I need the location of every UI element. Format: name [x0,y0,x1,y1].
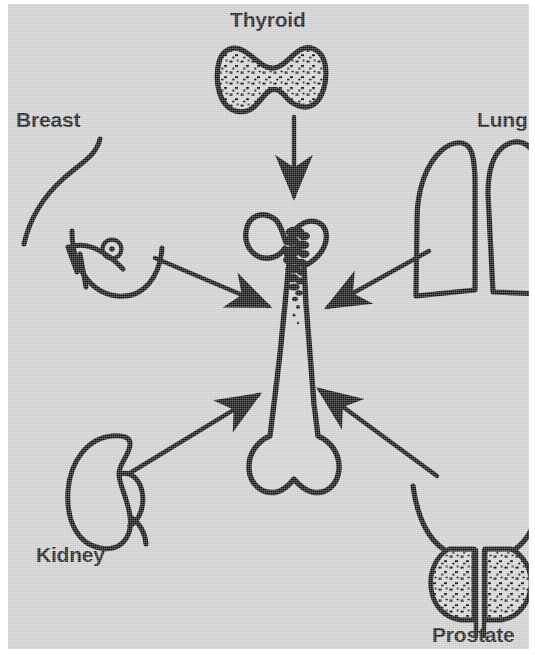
lung-organ [416,142,529,296]
label-thyroid: Thyroid [230,9,306,30]
label-breast: Breast [16,109,80,130]
prostate-organ [413,486,529,636]
breast-organ [24,139,162,296]
figure-root: Thyroid Breast Lung Kidney Prostate [0,0,535,655]
femur-bone [246,215,339,493]
arrow-breast-to-bone [155,258,268,306]
label-lung: Lung [477,109,528,130]
arrow-kidney-to-bone [130,395,258,473]
kidney-organ [68,436,146,549]
label-kidney: Kidney [36,544,105,565]
thyroid-organ [217,48,326,112]
figure-plate: Thyroid Breast Lung Kidney Prostate [8,4,529,649]
label-prostate: Prostate [432,624,514,645]
